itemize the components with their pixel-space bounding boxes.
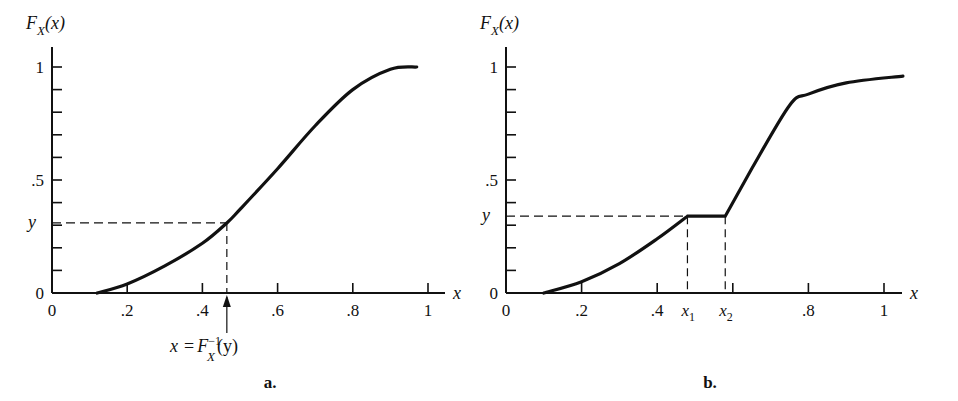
x-tick-label: .2	[121, 301, 134, 320]
y-tick-label: 1	[490, 58, 499, 77]
x-tick-label: .6	[271, 301, 284, 320]
y-tick-label: 1	[36, 58, 45, 77]
cdf-curve	[544, 76, 903, 293]
x-tick-label: 1	[424, 301, 433, 320]
x-tick-label: .4	[651, 301, 664, 320]
arrow-up-icon	[223, 295, 231, 307]
inverse-cdf-annotation: x=F−1X(y)	[169, 334, 238, 364]
panel-caption: a.	[264, 373, 277, 392]
x-axis-label: x	[909, 283, 918, 303]
y-axis-label: FX(x)	[25, 13, 65, 38]
figure-canvas: 0.510.2.4.6.81xFX(x)yx=F−1X(y)a. 0.510.2…	[0, 0, 958, 401]
x-tick-label: .4	[196, 301, 209, 320]
y-tick-label: .5	[31, 171, 44, 190]
x-tick-label: .8	[346, 301, 359, 320]
panel-a-cdf-continuous: 0.510.2.4.6.81xFX(x)yx=F−1X(y)a.	[25, 13, 461, 392]
panel-caption: b.	[703, 373, 717, 392]
y-tick-label: 0	[36, 284, 45, 303]
x-tick-label: .8	[802, 301, 815, 320]
x1-label: x1	[680, 301, 695, 324]
y-marker-label: y	[480, 205, 490, 225]
x-axis-label: x	[452, 283, 461, 303]
y-tick-label: 0	[490, 284, 499, 303]
y-axis-label: FX(x)	[479, 13, 519, 38]
y-tick-label: .5	[485, 171, 498, 190]
cdf-curve	[97, 67, 417, 293]
x-tick-label: 0	[48, 301, 57, 320]
y-marker-label: y	[26, 212, 36, 232]
x2-label: x2	[718, 301, 733, 324]
x-tick-label: 1	[880, 301, 889, 320]
x-tick-label: .2	[575, 301, 588, 320]
x-tick-label: 0	[502, 301, 511, 320]
panel-b-cdf-flat-segment: 0.510.2.4.81xFX(x)yx1x2b.	[479, 13, 918, 392]
